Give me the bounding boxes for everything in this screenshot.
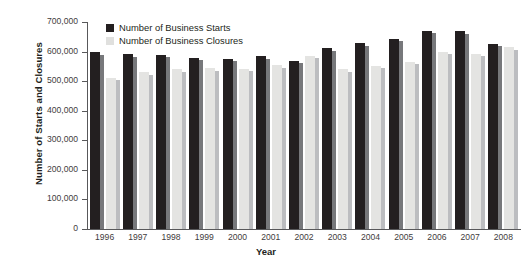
bar-starts-2006 (422, 31, 432, 229)
bar-closures-1999 (205, 68, 215, 229)
y-axis-tick-label: 700,000 (20, 16, 78, 26)
y-axis-label-wrap: 400,000 (14, 105, 78, 117)
bar-starts-1999-shadow (199, 60, 203, 229)
bar-closures-1999-shadow (215, 71, 219, 229)
business-starts-closures-bar-chart: Number of Starts and Closures 0100,00020… (0, 0, 532, 267)
y-axis-label-wrap: 500,000 (14, 75, 78, 87)
plot-area (88, 22, 520, 229)
bar-closures-2007-shadow (481, 56, 485, 229)
x-axis-line (87, 229, 521, 230)
bar-starts-2000 (223, 59, 233, 229)
bar-closures-2004-shadow (381, 68, 385, 229)
bar-starts-1996 (90, 52, 100, 229)
bar-closures-2008 (504, 47, 514, 229)
x-axis-tick-label-2008: 2008 (483, 232, 523, 242)
y-axis-label-wrap: 0 (14, 223, 78, 235)
bar-starts-2007 (455, 31, 465, 229)
bar-starts-2007-shadow (465, 34, 469, 229)
bar-starts-2006-shadow (432, 33, 436, 229)
y-axis-tick-label: 600,000 (20, 46, 78, 56)
bar-closures-1996-shadow (116, 80, 120, 229)
bar-starts-2005 (389, 39, 399, 229)
bar-closures-1997 (139, 72, 149, 229)
legend-item-label: Number of Business Closures (119, 35, 243, 46)
bar-closures-2006 (438, 52, 448, 229)
bar-starts-2004-shadow (365, 46, 369, 229)
bar-closures-2002 (305, 56, 315, 229)
bar-closures-2000-shadow (249, 71, 253, 229)
bar-starts-2004 (355, 43, 365, 229)
y-axis-label-wrap: 300,000 (14, 134, 78, 146)
bar-closures-2003 (338, 69, 348, 229)
bar-closures-2004 (371, 66, 381, 229)
bar-starts-1997-shadow (133, 57, 137, 229)
y-axis-tick-label: 300,000 (20, 134, 78, 144)
y-axis-tick-label: 200,000 (20, 164, 78, 174)
y-axis-tick-label: 100,000 (20, 193, 78, 203)
y-axis-label-wrap: 600,000 (14, 46, 78, 58)
bar-closures-2006-shadow (448, 54, 452, 229)
bar-closures-2008-shadow (514, 50, 518, 229)
bar-starts-1998 (156, 55, 166, 229)
legend-item-label: Number of Business Starts (119, 22, 231, 33)
bar-closures-1997-shadow (149, 75, 153, 229)
legend-swatch-icon (106, 37, 114, 45)
legend-item: Number of Business Closures (106, 34, 243, 47)
bar-starts-2002 (289, 61, 299, 229)
bar-starts-1999 (189, 58, 199, 230)
legend-swatch-icon (106, 24, 114, 32)
y-axis-tick-label: 400,000 (20, 105, 78, 115)
bar-closures-2003-shadow (348, 72, 352, 229)
bar-starts-2005-shadow (399, 41, 403, 229)
bar-starts-1996-shadow (100, 55, 104, 229)
bar-starts-2003 (322, 48, 332, 229)
bar-closures-2005 (405, 62, 415, 229)
bar-closures-2007 (471, 54, 481, 229)
bar-closures-2005-shadow (415, 64, 419, 229)
chart-legend: Number of Business StartsNumber of Busin… (106, 21, 243, 47)
bar-starts-2008 (488, 44, 498, 229)
bar-closures-1996 (106, 78, 116, 229)
legend-item: Number of Business Starts (106, 21, 243, 34)
bar-closures-2000 (239, 69, 249, 229)
bar-closures-1998 (172, 69, 182, 229)
bar-starts-2001 (256, 56, 266, 229)
y-axis-tick-label: 0 (20, 223, 78, 233)
y-axis-label-wrap: 200,000 (14, 164, 78, 176)
bar-starts-2008-shadow (498, 46, 502, 229)
y-axis-tick-label: 500,000 (20, 75, 78, 85)
bar-starts-2001-shadow (266, 59, 270, 229)
bar-closures-2002-shadow (315, 58, 319, 229)
bar-starts-1998-shadow (166, 57, 170, 229)
y-axis-label-wrap: 100,000 (14, 193, 78, 205)
bar-closures-2001-shadow (282, 68, 286, 229)
bar-starts-2002-shadow (299, 63, 303, 229)
bar-closures-2001 (272, 65, 282, 229)
bar-starts-2000-shadow (233, 61, 237, 229)
y-axis-label-wrap: 700,000 (14, 16, 78, 28)
bar-starts-2003-shadow (332, 51, 336, 229)
y-axis-tick (82, 229, 88, 230)
x-axis-title: Year (0, 246, 532, 257)
bar-closures-1998-shadow (182, 72, 186, 229)
bar-starts-1997 (123, 54, 133, 229)
